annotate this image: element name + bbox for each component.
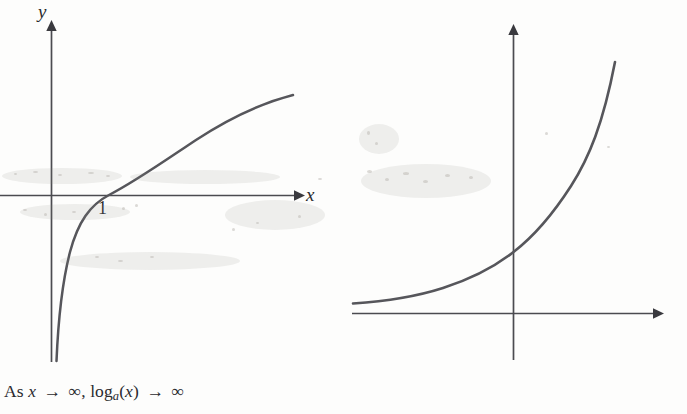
x-axis-arrowhead [653, 308, 664, 318]
caption-infinity-1: ∞ [69, 381, 82, 401]
scan-speckle [122, 207, 125, 210]
scan-speckle [135, 204, 138, 207]
scan-speckle [150, 256, 154, 258]
y-axis-arrowhead [508, 24, 518, 35]
scan-speckle [256, 222, 259, 224]
scan-speckle [607, 146, 610, 148]
x-axis-left [0, 190, 305, 200]
figure-page: y x 1 As x → ∞, loga(x) → ∞ [0, 0, 687, 414]
scan-smudge [2, 168, 122, 184]
y-axis-arrowhead [46, 20, 56, 31]
scan-smudge [359, 124, 399, 154]
x-axis-arrowhead [294, 190, 305, 200]
scan-speckle [23, 209, 27, 211]
caption-log-argument: x [125, 381, 133, 401]
scan-speckle [545, 132, 548, 135]
caption-variable: x [28, 381, 36, 401]
scan-speckle [88, 172, 94, 174]
scan-speckle [367, 131, 370, 135]
scan-speckle [318, 178, 322, 180]
logarithm-graph-panel: y x 1 As x → ∞, loga(x) → ∞ [0, 0, 345, 414]
caption-comma: , [81, 381, 85, 401]
scan-speckle [367, 170, 372, 173]
scan-speckle [44, 213, 47, 216]
scan-speckle [403, 172, 409, 175]
scan-speckle [469, 176, 473, 179]
scan-speckle [375, 142, 378, 145]
caption-arrow-1: → [41, 381, 65, 401]
exponential-plot-svg [345, 0, 687, 414]
y-axis-left [46, 20, 56, 362]
x-axis-right [352, 308, 664, 318]
scan-smudge [60, 252, 240, 270]
scan-speckle [232, 228, 235, 231]
caption-arrow-2: → [143, 381, 167, 401]
scan-speckle [95, 256, 99, 258]
caption-lead: As [4, 381, 24, 401]
scan-speckle [33, 171, 38, 173]
scan-smudge [130, 170, 280, 184]
scan-speckle [445, 174, 450, 177]
scan-speckle [118, 260, 123, 262]
caption-paren-close: ) [133, 381, 139, 401]
exponential-graph-panel: y x 1 As x → ∞, ax → ∞ [345, 0, 687, 414]
scan-smudge [225, 200, 325, 230]
y-axis-label: y [38, 1, 46, 23]
scan-speckle [423, 180, 428, 183]
caption-infinity-2: ∞ [172, 381, 185, 401]
caption-log-name: log [90, 381, 113, 401]
scan-speckle [298, 215, 301, 218]
scan-speckle [385, 178, 389, 181]
scan-speckle [72, 211, 76, 213]
scan-speckle [14, 173, 17, 175]
y-axis-right [508, 24, 518, 360]
scan-speckle [58, 174, 62, 176]
logarithm-caption: As x → ∞, loga(x) → ∞ [4, 381, 184, 404]
scan-speckle [106, 175, 110, 177]
